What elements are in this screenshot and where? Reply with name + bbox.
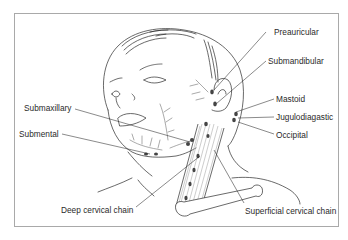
- label-jugulodiagastic: Jugulodiagastic: [276, 113, 333, 121]
- head-outline: [103, 29, 243, 146]
- label-submental: Submental: [19, 130, 59, 138]
- neck-muscle: [178, 124, 222, 206]
- lymph-nodes: [144, 90, 238, 201]
- label-preauricular: Preauricular: [274, 28, 319, 36]
- jaw-outline: [108, 110, 196, 157]
- label-superficial-cervical-chain: Superficial cervical chain: [245, 207, 336, 215]
- leader-lines: [62, 32, 274, 207]
- label-submaxillary: Submaxillary: [24, 104, 72, 112]
- label-submandibular: Submandibular: [268, 57, 324, 65]
- label-occipital: Occipital: [276, 131, 308, 139]
- label-deep-cervical-chain: Deep cervical chain: [61, 206, 133, 214]
- label-mastoid: Mastoid: [276, 95, 305, 103]
